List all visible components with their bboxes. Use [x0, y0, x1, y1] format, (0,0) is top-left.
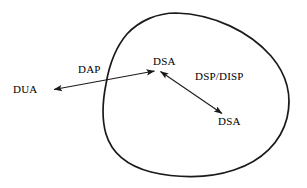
diagram-graphics: DSA (crosses the boundary) --> DSA (insi… — [0, 0, 307, 188]
directory-boundary-shape — [103, 13, 289, 177]
edge-label-dsp-disp: DSP/DISP — [195, 70, 244, 82]
dap-connector — [54, 71, 155, 90]
diagram-canvas: DSA (crosses the boundary) --> DSA (insi… — [0, 0, 307, 188]
edge-label-dap: DAP — [78, 63, 101, 75]
node-label-dua: DUA — [13, 83, 37, 95]
node-label-dsa-bottom: DSA — [218, 115, 241, 127]
node-label-dsa-top: DSA — [153, 55, 176, 67]
